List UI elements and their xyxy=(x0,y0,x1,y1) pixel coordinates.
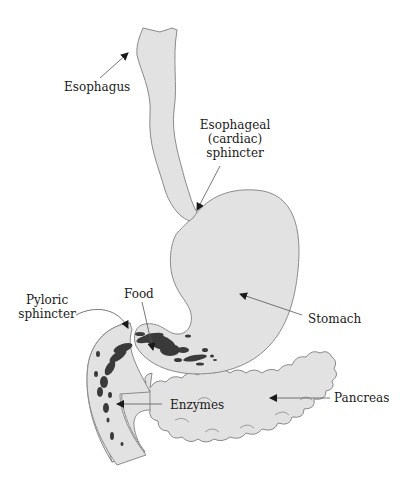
label-esophageal-sphincter-line2: (cardiac) xyxy=(195,132,275,146)
diagram-drawing xyxy=(0,0,408,485)
esophagus-shape xyxy=(137,28,198,222)
label-esophageal-sphincter-line3: sphincter xyxy=(195,146,275,160)
label-stomach: Stomach xyxy=(308,312,361,326)
label-esophageal-sphincter-line1: Esophageal xyxy=(195,118,275,132)
label-food: Food xyxy=(124,287,154,301)
label-pancreas: Pancreas xyxy=(334,391,389,405)
digestive-diagram: Esophagus Esophageal (cardiac) sphincter… xyxy=(0,0,408,485)
label-esophagus: Esophagus xyxy=(64,80,130,94)
esophagus-arrow xyxy=(100,53,128,78)
label-pyloric-sphincter-line1: Pyloric xyxy=(18,293,76,307)
label-esophageal-sphincter: Esophageal (cardiac) sphincter xyxy=(195,118,275,160)
label-enzymes: Enzymes xyxy=(170,398,224,412)
label-pyloric-sphincter-line2: sphincter xyxy=(18,307,76,321)
label-pyloric-sphincter: Pyloric sphincter xyxy=(18,293,76,321)
